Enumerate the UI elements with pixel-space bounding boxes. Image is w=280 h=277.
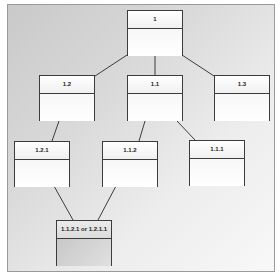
node-body	[128, 29, 182, 56]
node-body	[40, 94, 94, 121]
node-label: 1.2	[40, 76, 94, 94]
edge-1-1.2	[95, 55, 127, 76]
node-label: 1.1	[128, 76, 182, 94]
edge-1-1.3	[182, 55, 214, 76]
node-label: 1.1.2	[103, 142, 157, 160]
node-body	[215, 94, 269, 121]
node-body	[57, 239, 111, 266]
node-1-1-1[interactable]: 1.1.1	[189, 140, 245, 186]
edge-1.2-1.2.1	[52, 121, 59, 141]
node-label: 1.1.2.1 or 1.2.1.1	[57, 221, 111, 239]
node-label: 1.1.1	[190, 141, 244, 159]
node-1-3[interactable]: 1.3	[214, 75, 270, 121]
node-body	[15, 160, 69, 187]
edge-1.1-1.1.2	[139, 121, 145, 141]
node-1-2[interactable]: 1.2	[39, 75, 95, 121]
node-1-1-2[interactable]: 1.1.2	[102, 141, 158, 187]
edge-1.1-1.1.1	[177, 121, 195, 140]
node-label: 1.3	[215, 76, 269, 94]
node-merge[interactable]: 1.1.2.1 or 1.2.1.1	[56, 220, 112, 266]
node-body	[103, 160, 157, 187]
node-label: 1	[128, 11, 182, 29]
node-label: 1.2.1	[15, 142, 69, 160]
node-1-2-1[interactable]: 1.2.1	[14, 141, 70, 187]
node-1[interactable]: 1	[127, 10, 183, 56]
node-body	[128, 94, 182, 121]
node-1-1[interactable]: 1.1	[127, 75, 183, 121]
edge-1.1.2-merge	[98, 186, 116, 220]
node-body	[190, 159, 244, 186]
edge-1.2.1-merge	[54, 186, 73, 220]
